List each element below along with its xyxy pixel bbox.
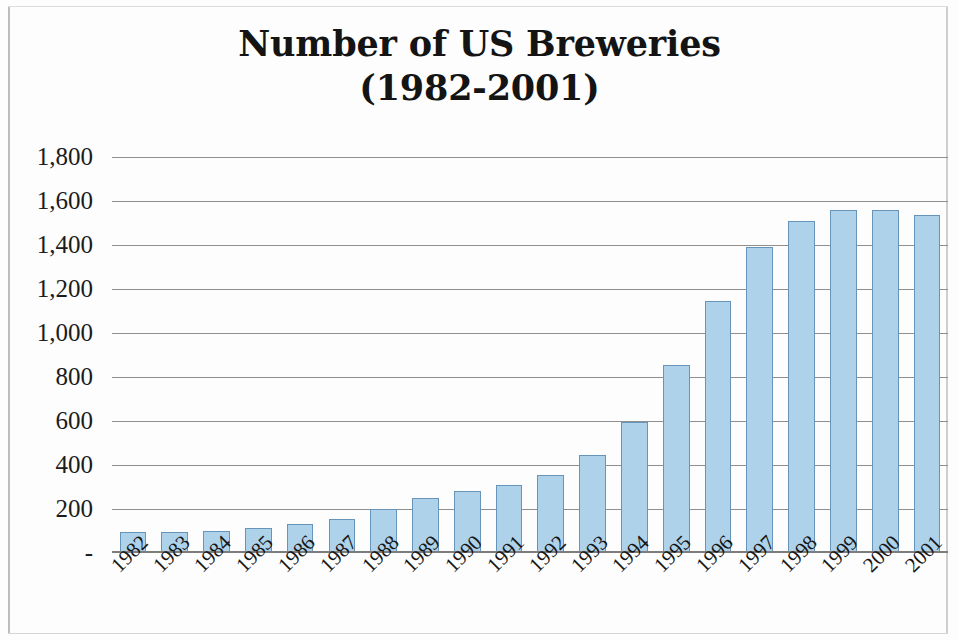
x-label-slot: 1982 <box>112 556 154 640</box>
bar-slot <box>530 157 572 553</box>
chart-title-line-2: (1982-2001) <box>0 66 959 110</box>
bar-slot <box>446 157 488 553</box>
bar-slot <box>112 157 154 553</box>
y-axis-tick-label: 1,000 <box>37 319 93 347</box>
bar <box>872 210 899 553</box>
bar-slot <box>237 157 279 553</box>
x-label-slot: 1992 <box>530 556 572 640</box>
y-axis-tick-label: 200 <box>56 495 94 523</box>
y-axis-tick-label: 600 <box>56 407 94 435</box>
y-axis-tick-label: - <box>85 539 93 567</box>
bar-slot <box>823 157 865 553</box>
y-axis-tick-label: 1,200 <box>37 275 93 303</box>
brewery-bar-chart: Number of US Breweries (1982-2001) 1,800… <box>0 0 959 640</box>
x-label-slot: 1998 <box>781 556 823 640</box>
bar-slot <box>405 157 447 553</box>
y-axis-tick-label: 1,600 <box>37 187 93 215</box>
bar-slot <box>488 157 530 553</box>
plot-area: 1,8001,6001,4001,2001,000800600400200- <box>112 157 948 553</box>
x-label-slot: 1999 <box>823 556 865 640</box>
x-label-slot: 1993 <box>572 556 614 640</box>
x-label-slot: 1983 <box>154 556 196 640</box>
x-label-slot: 1995 <box>655 556 697 640</box>
bar-slot <box>614 157 656 553</box>
bar-slot <box>781 157 823 553</box>
x-label-slot: 2001 <box>906 556 948 640</box>
bar <box>746 247 773 553</box>
y-axis-tick-label: 1,400 <box>37 231 93 259</box>
bar-slot <box>363 157 405 553</box>
bar-slot <box>655 157 697 553</box>
bar-slot <box>572 157 614 553</box>
x-label-slot: 2000 <box>864 556 906 640</box>
bar <box>830 210 857 553</box>
x-label-slot: 1988 <box>363 556 405 640</box>
x-axis-labels: 1982198319841985198619871988198919901991… <box>112 556 948 640</box>
x-label-slot: 1996 <box>697 556 739 640</box>
x-label-slot: 1985 <box>237 556 279 640</box>
bar-slot <box>697 157 739 553</box>
bar-slot <box>279 157 321 553</box>
y-axis-tick-label: 400 <box>56 451 94 479</box>
y-axis-tick-label: 1,800 <box>37 143 93 171</box>
x-label-slot: 1991 <box>488 556 530 640</box>
x-label-slot: 1984 <box>196 556 238 640</box>
bar-slot <box>196 157 238 553</box>
x-label-slot: 1990 <box>446 556 488 640</box>
x-label-slot: 1994 <box>614 556 656 640</box>
x-label-slot: 1986 <box>279 556 321 640</box>
bar <box>788 221 815 553</box>
bar-slot <box>864 157 906 553</box>
bar-slot <box>154 157 196 553</box>
x-label-slot: 1987 <box>321 556 363 640</box>
bar-slot <box>906 157 948 553</box>
x-label-slot: 1997 <box>739 556 781 640</box>
bar <box>705 301 732 553</box>
x-label-slot: 1989 <box>405 556 447 640</box>
bar-slot <box>739 157 781 553</box>
chart-title-line-1: Number of US Breweries <box>238 23 720 64</box>
bar <box>663 365 690 553</box>
y-axis-tick-label: 800 <box>56 363 94 391</box>
bar-slot <box>321 157 363 553</box>
bar <box>914 215 941 553</box>
page-border-top <box>8 6 948 7</box>
bars <box>112 157 948 553</box>
chart-title: Number of US Breweries (1982-2001) <box>0 22 959 110</box>
